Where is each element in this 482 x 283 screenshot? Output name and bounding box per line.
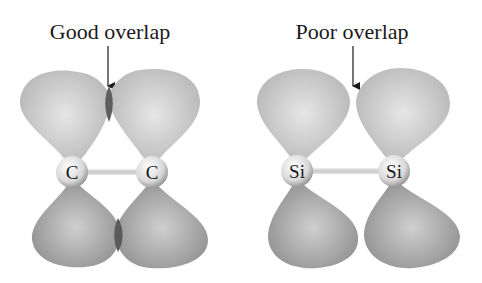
orbital-overlap-diagram: Good overlap C C Poor overlap Si [0, 0, 482, 283]
p-orbital-bottom-lobe-right [116, 178, 208, 268]
p-orbital-top-lobe-left [257, 69, 350, 168]
panel-silicon: Poor overlap Si Si [257, 19, 460, 268]
caption-poor-overlap: Poor overlap [295, 19, 408, 44]
p-orbital-bottom-lobe-right [364, 178, 460, 268]
caption-good-overlap: Good overlap [50, 19, 170, 44]
p-orbital-bottom-lobe-left [32, 178, 120, 267]
p-orbital-bottom-lobe-left [268, 178, 358, 268]
atom-label-silicon-left: Si [289, 161, 305, 182]
atom-label-silicon-right: Si [386, 161, 402, 182]
p-orbital-top-lobe-right [356, 68, 450, 168]
atom-label-carbon-left: C [66, 162, 79, 183]
panel-carbon: Good overlap C C [20, 19, 208, 268]
atom-label-carbon-right: C [146, 162, 159, 183]
p-orbital-top-lobe-right [108, 69, 200, 170]
p-orbital-top-lobe-left [20, 70, 110, 170]
